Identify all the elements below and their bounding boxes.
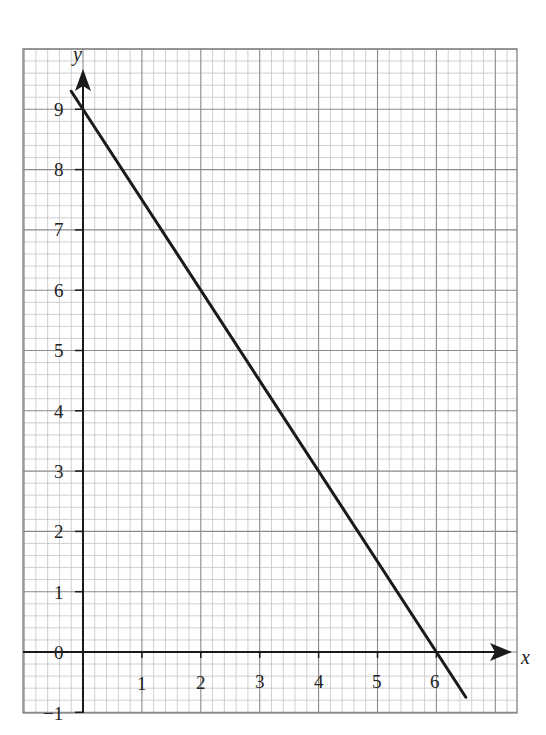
grid-border <box>23 49 517 713</box>
y-tick-label: 2 <box>54 521 64 542</box>
y-tick-label: −1 <box>43 703 63 724</box>
y-axis-label: y <box>71 43 82 66</box>
x-tick-label: 1 <box>137 673 147 694</box>
y-tick-label: 6 <box>54 280 64 301</box>
y-tick-label: 7 <box>54 219 64 240</box>
y-tick-label: 0 <box>54 642 64 663</box>
y-tick-label: 9 <box>54 99 64 120</box>
y-tick-label: 5 <box>54 340 64 361</box>
major-grid <box>23 49 517 713</box>
x-axis-label: x <box>520 646 530 668</box>
minor-grid <box>23 49 517 713</box>
x-tick-label: 5 <box>372 671 382 692</box>
x-tick-label: 4 <box>314 671 324 692</box>
y-tick-labels: 9 8 7 6 5 4 3 2 1 0 −1 <box>43 99 64 724</box>
y-tick-label: 1 <box>54 582 64 603</box>
graph-paper-plot: x y 1 2 3 4 5 6 9 8 7 6 5 4 3 2 1 0 −1 <box>0 0 546 735</box>
y-tick-label: 4 <box>54 401 64 422</box>
x-tick-label: 2 <box>196 672 206 693</box>
x-tick-labels: 1 2 3 4 5 6 <box>137 671 440 694</box>
x-tick-label: 6 <box>430 671 440 692</box>
y-tick-label: 8 <box>54 159 64 180</box>
y-tick-label: 3 <box>54 461 64 482</box>
x-tick-label: 3 <box>255 671 265 692</box>
